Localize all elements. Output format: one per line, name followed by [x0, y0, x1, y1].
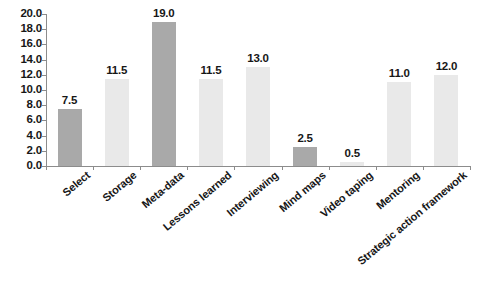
y-axis-tick-mark	[42, 90, 46, 91]
y-axis-tick-mark	[42, 44, 46, 45]
bar	[246, 67, 270, 166]
bar	[105, 79, 129, 166]
bar	[58, 109, 82, 166]
y-axis-line	[46, 14, 47, 166]
x-axis-tick-mark	[470, 166, 471, 170]
x-axis-category-label: Meta-data	[140, 170, 186, 211]
bar	[434, 75, 458, 166]
bar	[387, 82, 411, 166]
y-axis-tick-labels: 20.018.016.014.012.010.08.06.04.02.00.0	[6, 0, 42, 287]
bar-value-label: 12.0	[436, 61, 458, 73]
y-axis-tick-mark	[42, 60, 46, 61]
bar	[340, 162, 364, 166]
y-axis-tick-label: 12.0	[8, 69, 42, 81]
y-axis-tick-label: 8.0	[8, 99, 42, 111]
y-axis-tick-label: 6.0	[8, 115, 42, 127]
x-axis-category-labels: SelectStorageMeta-dataLessons learnedInt…	[46, 168, 470, 287]
bar-value-label: 11.5	[106, 65, 127, 77]
y-axis-tick-mark	[42, 136, 46, 137]
y-axis-tick-mark	[42, 14, 46, 15]
y-axis-tick-label: 16.0	[8, 39, 42, 51]
bar-value-label: 0.5	[345, 148, 360, 160]
y-axis-tick-mark	[42, 151, 46, 152]
x-axis-line	[46, 166, 470, 167]
bar-value-label: 11.0	[389, 68, 410, 80]
bar-value-label: 7.5	[62, 95, 77, 107]
y-axis-tick-mark	[42, 29, 46, 30]
y-axis-tick-label: 10.0	[8, 84, 42, 96]
x-axis-category-label: Mentoring	[375, 170, 422, 212]
bar-value-label: 13.0	[247, 53, 269, 65]
x-axis-category-label: Storage	[101, 170, 139, 204]
y-axis-tick-label: 20.0	[8, 8, 42, 20]
bar-value-label: 19.0	[153, 8, 175, 20]
y-axis-tick-mark	[42, 120, 46, 121]
y-axis-tick-label: 4.0	[8, 130, 42, 142]
bar-chart: 20.018.016.014.012.010.08.06.04.02.00.0 …	[0, 0, 479, 287]
y-axis-tick-label: 0.0	[8, 160, 42, 172]
bar-value-label: 11.5	[200, 65, 221, 77]
y-axis-tick-mark	[42, 105, 46, 106]
bar	[199, 79, 223, 166]
x-axis-category-label: Select	[60, 170, 91, 199]
bar	[152, 22, 176, 166]
y-axis-tick-mark	[42, 75, 46, 76]
y-axis-tick-label: 2.0	[8, 145, 42, 157]
plot-area: 7.511.519.011.513.02.50.511.012.0	[46, 14, 470, 166]
bar	[293, 147, 317, 166]
bar-value-label: 2.5	[297, 133, 312, 145]
y-axis-tick-label: 18.0	[8, 23, 42, 35]
y-axis-tick-label: 14.0	[8, 54, 42, 66]
